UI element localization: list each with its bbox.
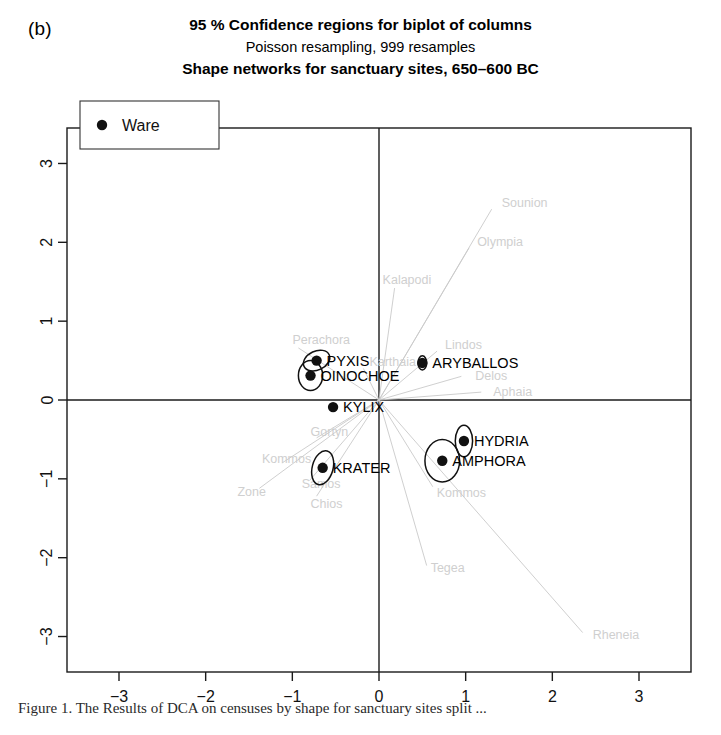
site-label: Aphaia: [493, 385, 532, 399]
site-label: Delos: [475, 369, 507, 383]
ware-point[interactable]: [317, 463, 327, 473]
site-label: Zone: [237, 485, 266, 499]
ware-point[interactable]: [305, 370, 315, 380]
site-label: Rheneia: [593, 628, 640, 642]
site-label: Kalapodi: [383, 273, 432, 287]
ware-label: KRATER: [333, 460, 391, 476]
site-label: Sounion: [502, 196, 548, 210]
ware-label: ARYBALLOS: [432, 355, 518, 371]
ware-label: HYDRIA: [474, 433, 529, 449]
ware-label: KYLIX: [343, 399, 384, 415]
site-label: Olympia: [477, 235, 523, 249]
site-label: Perachora: [292, 333, 350, 347]
ware-point[interactable]: [328, 402, 338, 412]
y-axis-tick-label: 0: [39, 395, 56, 404]
site-label: Chios: [311, 497, 343, 511]
biplot-canvas: −3−2−10123−3−2−10123SounionOlympiaKalapo…: [0, 0, 721, 735]
figure-panel: (b) 95 % Confidence regions for biplot o…: [0, 0, 721, 735]
site-ray: [379, 400, 427, 566]
y-axis-tick-label: −3: [39, 627, 56, 645]
y-axis-tick-label: −2: [39, 548, 56, 566]
ware-point[interactable]: [459, 436, 469, 446]
ware-label: OINOCHOE: [321, 368, 400, 384]
site-label: Tegea: [431, 561, 465, 575]
ware-point[interactable]: [417, 358, 427, 368]
site-label: Kommos: [437, 486, 486, 500]
ware-label: AMPHORA: [452, 453, 526, 469]
figure-caption: Figure 1. The Results of DCA on censuses…: [18, 700, 718, 717]
legend-label: Ware: [122, 117, 160, 134]
ware-label: PYXIS: [327, 353, 370, 369]
site-label: Lindos: [445, 338, 482, 352]
y-axis-tick-label: 2: [39, 238, 56, 247]
y-axis-tick-label: 1: [39, 317, 56, 326]
y-axis-tick-label: −1: [39, 470, 56, 488]
legend-marker-icon: [97, 120, 107, 130]
site-label: Kommos: [262, 452, 311, 466]
y-axis-tick-label: 3: [39, 159, 56, 168]
ware-point[interactable]: [437, 456, 447, 466]
